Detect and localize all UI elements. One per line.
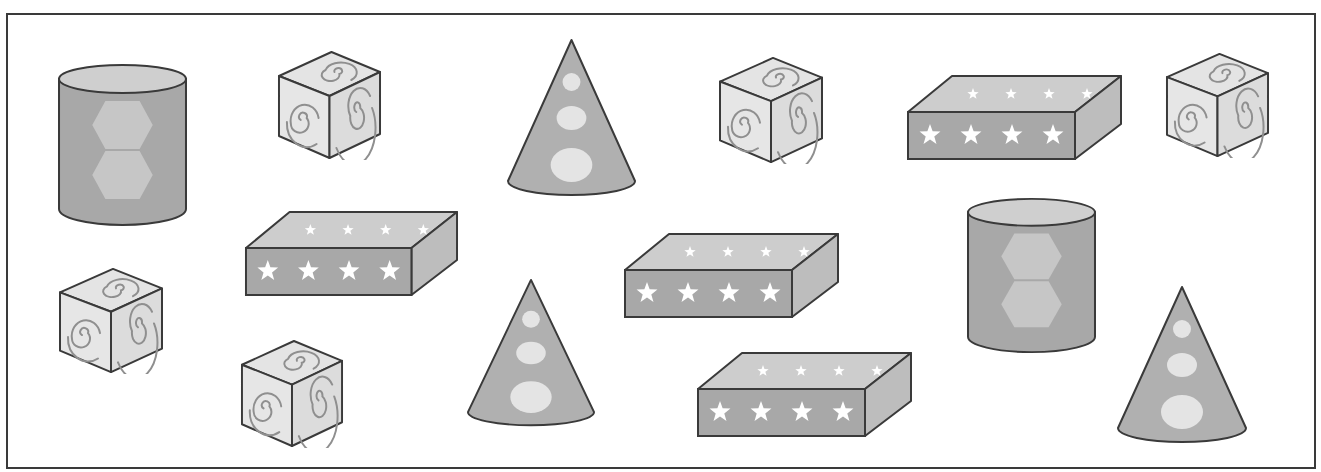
rectangular-prism-shape: [246, 212, 457, 295]
cube-shape: [60, 269, 162, 379]
cube-shape: [279, 52, 380, 165]
cylinder-shape: [968, 199, 1095, 352]
cone-shape: [468, 280, 594, 425]
cube-shape: [242, 341, 342, 453]
cone-shape: [508, 40, 635, 195]
shapes-scene: [0, 0, 1321, 472]
rectangular-prism-shape: [908, 76, 1121, 159]
rectangular-prism-shape: [625, 234, 838, 317]
cylinder-shape: [59, 65, 186, 225]
cone-shape: [1118, 287, 1246, 442]
cube-shape: [720, 58, 822, 169]
cube-shape: [1167, 54, 1268, 163]
rectangular-prism-shape: [698, 353, 911, 436]
shape-layer: [59, 40, 1268, 453]
